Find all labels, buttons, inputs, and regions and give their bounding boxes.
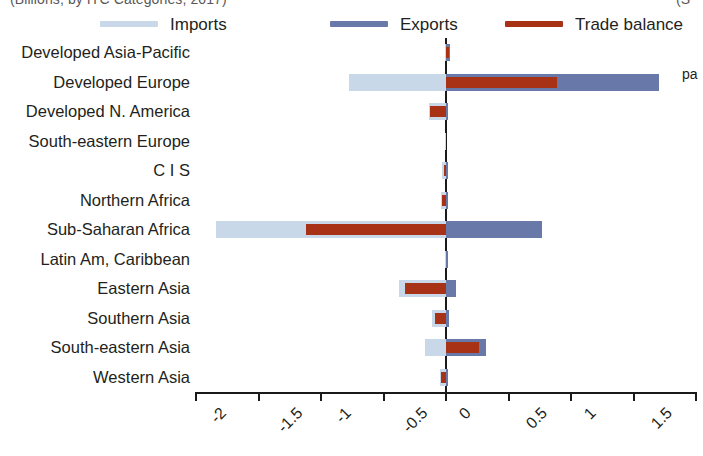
category-label-2: Developed N. America: [0, 97, 196, 127]
bar-exports-5[interactable]: [446, 192, 448, 209]
category-axis-labels: Developed Asia-PacificDeveloped EuropeDe…: [0, 38, 196, 392]
x-tick-5: [508, 392, 510, 401]
bar-exports-4[interactable]: [446, 162, 448, 179]
bar-group-8: [196, 274, 696, 304]
clipped-title-text: (Billions, by ITC Categories, 2017): [10, 0, 227, 7]
category-label-6: Sub-Saharan Africa: [0, 215, 196, 245]
category-label-10: South-eastern Asia: [0, 333, 196, 363]
category-label-8: Eastern Asia: [0, 274, 196, 304]
legend-item-exports[interactable]: Exports: [330, 12, 458, 36]
line-swatch-icon: [505, 21, 563, 27]
bar-trade-balance-6[interactable]: [306, 224, 446, 235]
bar-trade-balance-11[interactable]: [441, 372, 446, 383]
bar-exports-2[interactable]: [446, 103, 448, 120]
bar-exports-8[interactable]: [446, 280, 456, 297]
category-label-11: Western Asia: [0, 363, 196, 393]
x-tick-label-2: -1: [332, 404, 355, 427]
x-tick-6: [570, 392, 572, 401]
category-label-0: Developed Asia-Pacific: [0, 38, 196, 68]
bar-trade-balance-8[interactable]: [405, 283, 446, 294]
bar-exports-7[interactable]: [446, 251, 448, 268]
x-tick-label-4: 0: [456, 404, 475, 423]
line-swatch-icon: [100, 21, 158, 27]
category-label-5: Northern Africa: [0, 186, 196, 216]
bar-exports-9[interactable]: [446, 310, 449, 327]
legend-label: Exports: [400, 16, 458, 33]
x-tick-8: [695, 392, 697, 401]
category-label-7: Latin Am, Caribbean: [0, 245, 196, 275]
bar-trade-balance-5[interactable]: [442, 195, 446, 206]
line-swatch-icon: [330, 21, 388, 27]
bar-group-7: [196, 245, 696, 275]
x-tick-2: [320, 392, 322, 401]
bar-group-2: [196, 97, 696, 127]
bar-trade-balance-2[interactable]: [430, 106, 446, 117]
bar-group-10: [196, 333, 696, 363]
x-tick-label-0: -2: [207, 404, 230, 427]
bars-container: [196, 38, 696, 392]
bar-exports-11[interactable]: [446, 369, 448, 386]
legend-label: Imports: [170, 16, 227, 33]
bar-trade-balance-10[interactable]: [446, 342, 479, 353]
bar-trade-balance-0[interactable]: [446, 47, 449, 58]
x-tick-label-7: 1.5: [647, 404, 675, 432]
category-label-9: Southern Asia: [0, 304, 196, 334]
x-tick-0: [195, 392, 197, 401]
bar-trade-balance-9[interactable]: [435, 313, 446, 324]
category-label-1: Developed Europe: [0, 68, 196, 98]
bar-group-3: [196, 127, 696, 157]
bar-imports-1[interactable]: [349, 74, 447, 91]
x-tick-label-6: 1: [581, 404, 600, 423]
bar-imports-10[interactable]: [425, 339, 446, 356]
bar-group-6: [196, 215, 696, 245]
chart-plot-area: Developed Asia-PacificDeveloped EuropeDe…: [0, 38, 703, 456]
bar-group-11: [196, 363, 696, 393]
bar-group-1: [196, 68, 696, 98]
bar-group-4: [196, 156, 696, 186]
bar-exports-6[interactable]: [446, 221, 542, 238]
x-tick-4: [445, 392, 447, 401]
bar-trade-balance-1[interactable]: [446, 77, 557, 88]
legend-label: Trade balance: [575, 16, 683, 33]
x-tick-label-5: 0.5: [522, 404, 550, 432]
category-label-3: South-eastern Europe: [0, 127, 196, 157]
x-tick-1: [258, 392, 260, 401]
bar-group-5: [196, 186, 696, 216]
x-tick-3: [383, 392, 385, 401]
bar-trade-balance-4[interactable]: [444, 165, 447, 176]
bar-group-9: [196, 304, 696, 334]
legend-item-trade-balance[interactable]: Trade balance: [505, 12, 683, 36]
category-label-4: C I S: [0, 156, 196, 186]
x-tick-7: [633, 392, 635, 401]
legend-item-imports[interactable]: Imports: [100, 12, 227, 36]
bar-group-0: [196, 38, 696, 68]
bar-imports-3[interactable]: [445, 133, 447, 150]
x-tick-label-3: -0.5: [399, 404, 431, 436]
chart-legend: ImportsExportsTrade balance: [0, 12, 703, 38]
clipped-right-text: (S: [676, 0, 690, 7]
x-tick-label-1: -1.5: [274, 404, 306, 436]
